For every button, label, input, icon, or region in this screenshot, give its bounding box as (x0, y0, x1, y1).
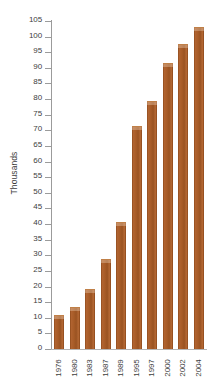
y-axis-tick-label: 20 (18, 282, 42, 292)
y-axis-tick-label: 100 (18, 32, 42, 42)
bar (147, 101, 157, 349)
x-axis-tick-label-text: 1997 (148, 351, 156, 385)
y-axis-tick-label: 90 (18, 63, 42, 73)
y-axis-tick-label: 55 (18, 172, 42, 182)
y-axis-tick-label: 70 (18, 125, 42, 135)
x-axis-tick-label: 2004 (192, 352, 206, 386)
x-axis-tick-label-text: 1989 (117, 351, 125, 385)
y-axis-tick-label-text: 85 (18, 78, 42, 86)
y-axis-tick-label-text: 40 (18, 219, 42, 227)
x-axis-tick-label: 1987 (99, 352, 113, 386)
y-axis-tick-label: 75 (18, 110, 42, 120)
y-axis-tick-label: 25 (18, 266, 42, 276)
y-axis-tick-label-text: 10 (18, 313, 42, 321)
x-axis-tick-label: 1995 (130, 352, 144, 386)
y-axis-tick-label-text: 100 (18, 32, 42, 40)
x-axis-tick-label: 2000 (161, 352, 175, 386)
y-axis-tick-label-text: 105 (18, 16, 42, 24)
y-axis-tick-label-text: 35 (18, 235, 42, 243)
y-axis-tick-label-text: 50 (18, 188, 42, 196)
x-axis-tick-label-text: 1995 (133, 351, 141, 385)
x-axis-tick-label: 1983 (83, 352, 97, 386)
x-axis-tick-label-text: 1980 (71, 351, 79, 385)
bar (101, 259, 111, 349)
y-axis-tick-label-text: 15 (18, 297, 42, 305)
bar (116, 222, 126, 349)
y-axis-tick-label-text: 95 (18, 47, 42, 55)
bar (194, 27, 204, 349)
y-axis-tick-label-text: 60 (18, 157, 42, 165)
y-axis-tick-label-text: 5 (18, 328, 42, 336)
x-axis-tick-label-text: 2002 (179, 351, 187, 385)
y-axis-tick-label: 50 (18, 188, 42, 198)
y-axis-tick-label-text: 45 (18, 203, 42, 211)
bar (178, 44, 188, 349)
x-axis-tick-label: 1989 (114, 352, 128, 386)
y-axis-tick-label-text: 20 (18, 282, 42, 290)
x-axis-tick-label: 1980 (68, 352, 82, 386)
y-axis-tick-label: 15 (18, 297, 42, 307)
bar-chart: Thousands 051015202530354045505560657075… (0, 0, 208, 388)
y-axis-tick-label: 35 (18, 235, 42, 245)
y-axis-tick (45, 349, 51, 350)
y-axis-tick-label-text: 75 (18, 110, 42, 118)
y-axis-tick-label: 10 (18, 313, 42, 323)
y-axis-tick-label-text: 25 (18, 266, 42, 274)
x-axis-tick-label-text: 1976 (55, 351, 63, 385)
y-axis-tick-label-text: 0 (18, 344, 42, 352)
y-axis-tick-label: 105 (18, 16, 42, 26)
y-axis-tick-label-text: 80 (18, 94, 42, 102)
x-axis-tick-label-text: 1983 (86, 351, 94, 385)
x-axis-tick-label: 1997 (145, 352, 159, 386)
x-axis-tick-label-text: 2000 (164, 351, 172, 385)
plot-area (51, 21, 206, 349)
y-axis-tick-label: 30 (18, 250, 42, 260)
y-axis-tick-label: 45 (18, 203, 42, 213)
y-axis-tick-label: 85 (18, 78, 42, 88)
x-axis-tick-label-text: 2004 (195, 351, 203, 385)
bar (132, 126, 142, 349)
y-axis-tick-label-text: 65 (18, 141, 42, 149)
y-axis-tick-label-text: 90 (18, 63, 42, 71)
bar (54, 315, 64, 349)
y-axis-tick-label: 5 (18, 328, 42, 338)
y-axis-tick-label: 80 (18, 94, 42, 104)
x-axis-tick-label: 1976 (52, 352, 66, 386)
y-axis-tick-label-text: 55 (18, 172, 42, 180)
y-axis-tick-label: 95 (18, 47, 42, 57)
y-axis-tick-label: 0 (18, 344, 42, 354)
x-axis-tick-label: 2002 (176, 352, 190, 386)
y-axis-tick-label: 40 (18, 219, 42, 229)
x-axis-line (51, 349, 207, 350)
bar (163, 63, 173, 349)
y-axis-tick-label: 65 (18, 141, 42, 151)
x-axis-tick-label-text: 1987 (102, 351, 110, 385)
bar (70, 307, 80, 349)
y-axis-tick-label-text: 30 (18, 250, 42, 258)
bar (85, 289, 95, 349)
y-axis-tick-label: 60 (18, 157, 42, 167)
y-axis-tick-label-text: 70 (18, 125, 42, 133)
